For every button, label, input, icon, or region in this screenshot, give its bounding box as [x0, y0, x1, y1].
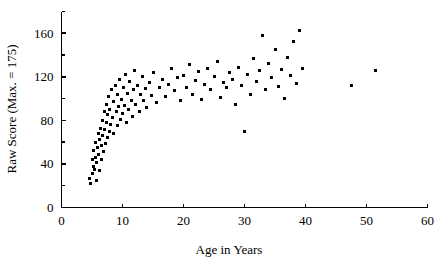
- plot-canvas: 010203040506004080120160 Age in Years Ra…: [0, 0, 446, 267]
- data-point: [114, 84, 117, 87]
- data-point: [124, 73, 127, 76]
- data-point: [119, 118, 122, 121]
- data-point: [127, 108, 130, 111]
- data-point: [123, 104, 126, 107]
- data-point: [117, 105, 120, 108]
- data-point: [203, 83, 206, 86]
- y-tick-label: 40: [41, 156, 54, 171]
- data-point: [292, 40, 295, 43]
- data-point: [98, 138, 101, 141]
- data-point: [197, 70, 200, 73]
- data-point: [144, 87, 147, 90]
- data-point: [158, 86, 161, 89]
- data-point: [122, 86, 125, 89]
- data-point: [286, 56, 289, 59]
- data-point: [131, 115, 134, 118]
- data-point: [152, 71, 155, 74]
- y-axis-title: Raw Score (Max. = 175): [4, 45, 19, 174]
- data-point: [267, 62, 270, 65]
- data-point: [115, 110, 118, 113]
- data-point: [200, 98, 203, 101]
- y-tick-label: 120: [34, 69, 54, 84]
- data-point: [105, 103, 108, 106]
- data-point: [116, 124, 119, 127]
- data-point: [107, 95, 110, 98]
- data-point: [280, 68, 283, 71]
- data-point: [258, 69, 261, 72]
- data-point: [301, 67, 304, 70]
- data-point: [120, 98, 123, 101]
- data-point: [176, 76, 179, 79]
- data-point: [243, 130, 246, 133]
- data-point: [249, 93, 252, 96]
- data-points-group: [88, 29, 377, 186]
- data-point: [97, 132, 100, 135]
- data-point: [95, 179, 98, 182]
- data-point: [92, 149, 95, 152]
- data-point: [350, 84, 353, 87]
- data-point: [240, 84, 243, 87]
- data-point: [116, 93, 119, 96]
- data-point: [89, 182, 92, 185]
- data-point: [216, 60, 219, 63]
- data-point: [209, 88, 212, 91]
- data-point: [270, 76, 273, 79]
- data-point: [277, 85, 280, 88]
- data-point: [118, 78, 121, 81]
- data-point: [95, 161, 98, 164]
- axes-group: [62, 12, 428, 208]
- data-point: [98, 169, 101, 172]
- data-point: [283, 97, 286, 100]
- x-tick-label: 0: [58, 213, 65, 228]
- data-point: [255, 80, 258, 83]
- data-point: [225, 86, 228, 89]
- data-point: [92, 165, 95, 168]
- data-point: [222, 81, 225, 84]
- data-point: [155, 101, 158, 104]
- data-point: [182, 74, 185, 77]
- data-point: [94, 156, 97, 159]
- data-point: [94, 141, 97, 144]
- data-point: [289, 74, 292, 77]
- data-point: [106, 113, 109, 116]
- data-point: [121, 112, 124, 115]
- x-tick-label: 60: [421, 213, 434, 228]
- data-point: [145, 106, 148, 109]
- data-point: [206, 67, 209, 70]
- data-point: [141, 75, 144, 78]
- x-tick-label: 50: [360, 213, 373, 228]
- data-point: [96, 146, 99, 149]
- data-point: [125, 121, 128, 124]
- data-point: [108, 130, 111, 133]
- x-tick-label: 10: [116, 213, 129, 228]
- data-point: [170, 67, 173, 70]
- data-point: [274, 48, 277, 51]
- data-point: [173, 89, 176, 92]
- data-point: [179, 99, 182, 102]
- data-point: [102, 150, 105, 153]
- data-point: [112, 132, 115, 135]
- x-tick-label: 30: [238, 213, 251, 228]
- data-point: [106, 136, 109, 139]
- data-point: [374, 69, 377, 72]
- data-point: [126, 92, 129, 95]
- y-tick-label: 0: [47, 200, 54, 215]
- x-tick-label: 40: [299, 213, 312, 228]
- tick-labels-group: 010203040506004080120160: [34, 26, 434, 228]
- data-point: [148, 81, 151, 84]
- data-point: [246, 73, 249, 76]
- data-point: [132, 88, 135, 91]
- data-point: [88, 177, 91, 180]
- data-point: [100, 144, 103, 147]
- y-tick-label: 160: [34, 26, 54, 41]
- data-point: [264, 88, 267, 91]
- data-point: [167, 83, 170, 86]
- data-point: [91, 172, 94, 175]
- y-tick-label: 80: [41, 113, 54, 128]
- data-point: [110, 88, 113, 91]
- data-point: [298, 29, 301, 32]
- data-point: [188, 63, 191, 66]
- data-point: [133, 69, 136, 72]
- data-point: [295, 82, 298, 85]
- data-point: [104, 142, 107, 145]
